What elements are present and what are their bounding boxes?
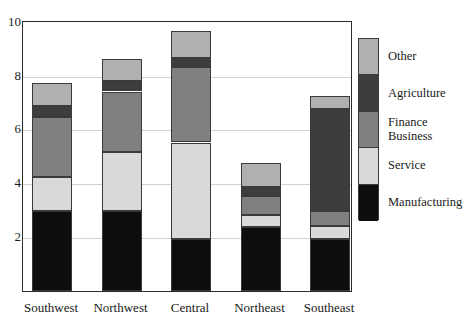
legend-label-other: Other	[388, 49, 416, 63]
y-tick-label-6: 6	[1, 122, 21, 135]
plot-area	[22, 21, 352, 292]
bar-segment-central-agriculture[interactable]	[171, 58, 211, 67]
bar-segment-northwest-service[interactable]	[102, 152, 142, 211]
y-tick-label-2: 2	[1, 230, 21, 243]
bar-segment-southwest-service[interactable]	[32, 177, 72, 211]
legend-swatch-finance[interactable]	[359, 112, 378, 148]
legend-swatch-column	[358, 38, 379, 220]
legend: OtherAgricultureFinanceBusinessServiceMa…	[358, 38, 464, 223]
y-tick-label-4: 4	[1, 176, 21, 189]
bar-segment-northwest-other[interactable]	[102, 59, 142, 81]
stacked-bar-chart: 246810 SouthwestNorthwestCentralNortheas…	[0, 0, 464, 329]
bar-segment-central-other[interactable]	[171, 31, 211, 58]
legend-swatch-service[interactable]	[359, 148, 378, 184]
bar-segment-northeast-manufacturing[interactable]	[241, 227, 281, 291]
bar-segment-southwest-other[interactable]	[32, 83, 72, 106]
bar-segment-southeast-service[interactable]	[310, 226, 350, 239]
bar-segment-northeast-service[interactable]	[241, 215, 281, 227]
bar-segment-northwest-agriculture[interactable]	[102, 81, 142, 92]
bar-segment-northeast-other[interactable]	[241, 163, 281, 187]
legend-swatch-manufacturing[interactable]	[359, 185, 378, 221]
bar-segment-northwest-manufacturing[interactable]	[102, 211, 142, 292]
x-tick-label-southeast: Southeast	[284, 300, 374, 315]
legend-label-line1: Agriculture	[388, 86, 446, 100]
bar-segment-southwest-manufacturing[interactable]	[32, 211, 72, 292]
bar-southwest[interactable]	[32, 22, 72, 293]
bar-segment-central-manufacturing[interactable]	[171, 239, 211, 291]
legend-swatch-other[interactable]	[359, 39, 378, 75]
bar-segment-southeast-manufacturing[interactable]	[310, 239, 350, 291]
bar-segment-southwest-agriculture[interactable]	[32, 106, 72, 117]
legend-label-line1: Service	[388, 158, 425, 172]
bar-segment-central-service[interactable]	[171, 143, 211, 240]
bar-segment-northeast-agriculture[interactable]	[241, 187, 281, 196]
bar-northeast[interactable]	[241, 22, 281, 293]
legend-swatch-agriculture[interactable]	[359, 75, 378, 111]
bar-segment-central-finance-business[interactable]	[171, 67, 211, 142]
bar-southeast[interactable]	[310, 22, 350, 293]
legend-label-manufacturing: Manufacturing	[388, 195, 462, 209]
x-axis: SouthwestNorthwestCentralNortheastSouthe…	[0, 300, 360, 324]
legend-label-service: Service	[388, 158, 425, 172]
bar-segment-southeast-finance-business[interactable]	[310, 211, 350, 226]
y-tick-label-8: 8	[1, 69, 21, 82]
legend-label-line2: Business	[388, 129, 432, 143]
y-axis: 246810	[0, 0, 21, 329]
legend-label-line1: Finance	[388, 115, 428, 129]
bar-segment-southeast-other[interactable]	[310, 96, 350, 109]
legend-label-agriculture: Agriculture	[388, 86, 446, 100]
legend-label-finance: FinanceBusiness	[388, 115, 432, 143]
bar-segment-northeast-finance-business[interactable]	[241, 196, 281, 215]
bar-segment-southwest-finance-business[interactable]	[32, 117, 72, 177]
y-tick-label-10: 10	[1, 15, 21, 28]
bar-central[interactable]	[171, 22, 211, 293]
legend-label-line1: Other	[388, 49, 416, 63]
bar-segment-northwest-finance-business[interactable]	[102, 92, 142, 152]
legend-label-line1: Manufacturing	[388, 195, 462, 209]
bar-segment-southeast-agriculture[interactable]	[310, 109, 350, 211]
bar-northwest[interactable]	[102, 22, 142, 293]
